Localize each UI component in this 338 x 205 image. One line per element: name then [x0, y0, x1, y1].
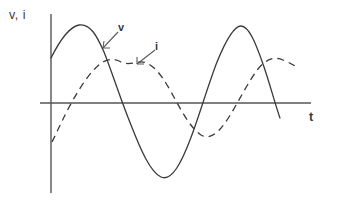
voltage-curve-label: v [118, 21, 124, 33]
x-axis-label: t [309, 110, 314, 124]
waveform-figure: v, i t v i [0, 0, 338, 205]
current-label-leader [137, 50, 155, 64]
voltage-label-leader [103, 32, 118, 48]
current-curve [52, 58, 295, 142]
y-axis-label: v, i [9, 8, 26, 22]
plot-canvas [0, 0, 338, 205]
current-curve-label: i [155, 40, 158, 52]
voltage-curve [51, 25, 280, 178]
